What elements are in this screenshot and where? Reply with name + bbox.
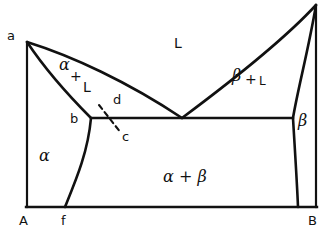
label-component-a: A	[19, 214, 28, 227]
label-point-f: f	[61, 214, 66, 227]
label-point-c: c	[122, 130, 129, 143]
label-point-b: b	[70, 112, 78, 125]
label-point-d: d	[113, 93, 121, 106]
label-liquid-glyph-2: L	[259, 75, 266, 87]
label-beta-glyph: β	[232, 68, 241, 84]
label-field-alpha-plus-beta: α + β	[163, 169, 207, 185]
right-solidus-curve	[293, 5, 316, 118]
label-alpha-glyph: α	[59, 57, 70, 73]
label-liquid-glyph: L	[83, 80, 91, 94]
phase-diagram-canvas	[0, 0, 335, 238]
label-point-a: a	[7, 29, 15, 42]
alpha-solvus-curve	[65, 118, 91, 207]
label-plus-glyph-2: +	[245, 72, 257, 86]
beta-solvus-curve	[293, 118, 298, 207]
label-field-liquid: L	[174, 36, 182, 50]
label-plus-glyph: +	[70, 69, 82, 83]
phase-diagram-figure: a b c d f A B L α + L β + L α β α + β	[0, 0, 335, 238]
label-field-beta: β	[298, 113, 307, 129]
label-component-b: B	[308, 214, 317, 227]
label-field-alpha: α	[39, 148, 50, 164]
left-liquidus-curve	[27, 42, 182, 118]
